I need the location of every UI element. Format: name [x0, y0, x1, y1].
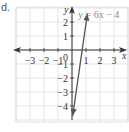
y-tick-label: 2	[63, 17, 68, 28]
graph-figure: d. −3−2−112321−1−2−3−40xyy = 6x − 4	[0, 0, 129, 132]
x-tick-label: −2	[39, 55, 50, 66]
y-tick-label: −3	[57, 87, 68, 98]
x-tick-label: 3	[112, 55, 117, 66]
coordinate-plane: −3−2−112321−1−2−3−40xyy = 6x − 4	[0, 0, 129, 132]
origin-label: 0	[63, 52, 68, 63]
x-tick-label: 1	[84, 55, 89, 66]
y-tick-label: 1	[63, 31, 68, 42]
equation-label: y = 6x − 4	[78, 9, 119, 20]
y-axis-label: y	[63, 4, 69, 15]
x-axis-label: x	[121, 50, 127, 61]
y-tick-label: −4	[57, 101, 68, 112]
x-tick-label: 2	[98, 55, 103, 66]
y-tick-label: −2	[57, 73, 68, 84]
x-tick-label: −3	[25, 55, 36, 66]
